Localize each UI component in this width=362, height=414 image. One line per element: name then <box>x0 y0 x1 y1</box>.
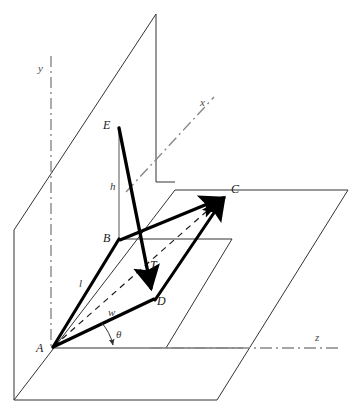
vector-T <box>119 128 151 288</box>
dimension-label-h: h <box>110 180 116 192</box>
dimension-label-l: l <box>79 277 82 289</box>
axis-label-y: y <box>38 62 43 74</box>
angle-theta-arc <box>101 322 113 345</box>
point-label-C: C <box>231 182 239 197</box>
vector-label-T: T <box>150 258 157 273</box>
point-label-B: B <box>103 231 110 246</box>
geometry-diagram: y x z A B C D E h l w θ T <box>0 0 362 414</box>
dimension-label-w: w <box>108 306 115 318</box>
edge-D-C <box>155 198 224 300</box>
point-label-D: D <box>157 294 166 309</box>
axis-label-z: z <box>315 331 319 343</box>
point-label-A: A <box>36 341 43 356</box>
axis-label-x: x <box>200 96 205 108</box>
point-label-E: E <box>103 118 110 133</box>
diagonal-AC <box>54 196 224 346</box>
axis-x <box>126 97 214 192</box>
ground-plane <box>14 190 348 400</box>
dimension-label-theta: θ <box>116 328 121 340</box>
diagram-canvas <box>0 0 362 414</box>
